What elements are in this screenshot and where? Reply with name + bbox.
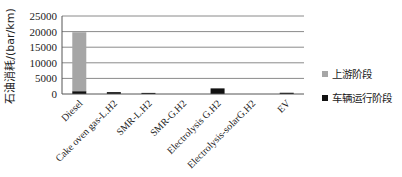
y-tick-label: 15000 [30,41,58,53]
bar-operation [211,88,225,94]
chart: 0500010000150002000025000 DieselCake ove… [0,0,402,177]
legend-label-upstream: 上游阶段 [332,68,373,80]
y-tick-label: 20000 [30,26,58,38]
x-category-label: Electrolysis-solarG.H2 [185,98,258,171]
bar-upstream [72,32,86,91]
x-category-label: Cake oven gas-L.H2 [53,98,119,164]
x-category-label: Diesel [59,97,85,123]
axes [62,16,304,94]
legend-label-operation: 车辆运行阶段 [332,92,393,104]
x-category-label: EV [275,97,293,115]
y-axis-label: 石油消耗/(bar/km) [3,8,17,103]
x-category-labels: DieselCake oven gas-L.H2SMR-L.H2SMR-G.H2… [53,97,293,170]
y-tick-label: 25000 [30,10,58,22]
y-tick-label: 10000 [30,57,58,69]
legend-swatch-operation [322,95,328,101]
grid-lines [62,16,304,78]
y-tick-label: 5000 [35,72,58,84]
legend-swatch-upstream [322,71,328,77]
legend: 上游阶段 车辆运行阶段 [322,68,393,104]
y-tick-label: 0 [52,88,58,100]
y-tick-labels: 0500010000150002000025000 [30,10,58,100]
